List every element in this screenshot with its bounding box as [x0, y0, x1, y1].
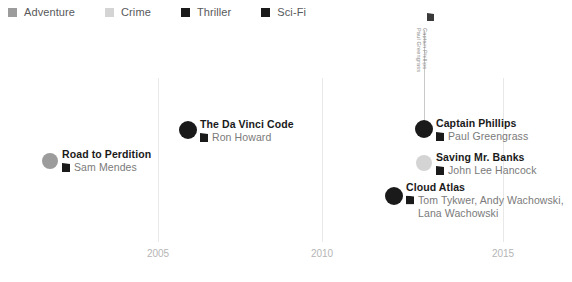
director-name-continued: Lana Wachowski	[406, 207, 564, 220]
x-tick-label: 2010	[311, 248, 333, 259]
film-title: The Da Vinci Code	[200, 118, 294, 131]
director-clapper-icon	[406, 196, 414, 205]
data-point-marker[interactable]	[42, 153, 58, 169]
director-row: Paul Greengrass	[436, 130, 528, 143]
director-name: Tom Tykwer, Andy Wachowski,	[418, 194, 564, 207]
director-row: John Lee Hancock	[436, 164, 537, 177]
data-point-label-group: Cloud Atlas Tom Tykwer, Andy Wachowski, …	[406, 181, 564, 220]
director-name: Ron Howard	[212, 131, 271, 144]
annotation-line-2: Paul Greengrass	[416, 28, 422, 72]
director-name: Paul Greengrass	[448, 130, 528, 143]
film-title: Captain Phillips	[436, 117, 528, 130]
data-point-label-group: Road to Perdition Sam Mendes	[62, 148, 151, 174]
director-name: John Lee Hancock	[448, 164, 537, 177]
plot-area: 2005 2010 2015 Captain Phillips Paul Gre…	[0, 0, 572, 282]
annotation-rotated-label: Captain Phillips Paul Greengrass	[416, 28, 428, 72]
director-name: Sam Mendes	[74, 161, 137, 174]
data-point-label-group: Saving Mr. Banks John Lee Hancock	[436, 151, 537, 177]
data-point-label-group: Captain Phillips Paul Greengrass	[436, 117, 528, 143]
director-clapper-icon	[436, 166, 444, 175]
director-row: Tom Tykwer, Andy Wachowski,	[406, 194, 564, 207]
director-row: Sam Mendes	[62, 161, 151, 174]
gridline-2010	[322, 78, 323, 242]
data-point-marker[interactable]	[385, 187, 403, 205]
data-point-label-group: The Da Vinci Code Ron Howard	[200, 118, 294, 144]
x-tick-label: 2015	[492, 248, 514, 259]
film-title: Saving Mr. Banks	[436, 151, 537, 164]
x-tick-label: 2005	[147, 248, 169, 259]
film-timeline-chart: Adventure Crime Thriller Sci-Fi 2005 201…	[0, 0, 572, 282]
director-clapper-icon	[427, 13, 434, 21]
data-point-marker[interactable]	[415, 120, 433, 138]
gridline-2005	[158, 78, 159, 242]
director-clapper-icon	[200, 133, 208, 142]
director-clapper-icon	[436, 132, 444, 141]
annotation-line-1: Captain Phillips	[422, 28, 428, 72]
data-point-marker[interactable]	[179, 121, 197, 139]
film-title: Road to Perdition	[62, 148, 151, 161]
director-row: Ron Howard	[200, 131, 294, 144]
director-clapper-icon	[62, 163, 70, 172]
data-point-marker[interactable]	[416, 155, 432, 171]
film-title: Cloud Atlas	[406, 181, 564, 194]
